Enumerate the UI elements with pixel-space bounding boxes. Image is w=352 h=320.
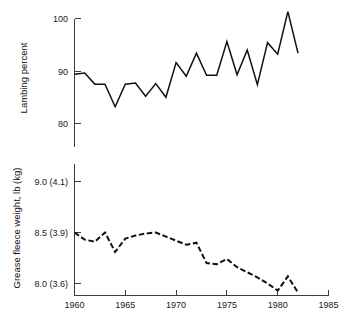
x-tick-label-1970: 1970 bbox=[166, 300, 186, 310]
y-tick-label-fleece-85: 8.5 (3.9) bbox=[34, 228, 68, 238]
x-tick-label-1985: 1985 bbox=[318, 300, 338, 310]
series-line-grease-fleece-weight bbox=[75, 233, 299, 293]
chart-figure: Lambing percent 100 90 80 Grease fleece … bbox=[0, 0, 352, 320]
panel-grease-fleece-weight: Grease fleece weight, lb (kg) 9.0 (4.1) … bbox=[11, 164, 339, 311]
y-tick-label-lambing-100: 100 bbox=[53, 14, 68, 24]
y-axis-title-lambing: Lambing percent bbox=[18, 42, 29, 113]
x-tick-label-1980: 1980 bbox=[268, 300, 288, 310]
y-axis-title-fleece: Grease fleece weight, lb (kg) bbox=[11, 168, 22, 289]
chart-svg: Lambing percent 100 90 80 Grease fleece … bbox=[0, 0, 352, 320]
y-tick-label-lambing-80: 80 bbox=[58, 119, 68, 129]
x-tick-marks bbox=[75, 290, 329, 296]
x-tick-label-1960: 1960 bbox=[64, 300, 84, 310]
x-tick-label-1975: 1975 bbox=[217, 300, 237, 310]
panel-lambing-percent: Lambing percent 100 90 80 bbox=[18, 12, 298, 147]
y-tick-label-lambing-90: 90 bbox=[58, 67, 68, 77]
x-tick-label-1965: 1965 bbox=[115, 300, 135, 310]
series-line-lambing-percent bbox=[75, 12, 299, 107]
y-tick-label-fleece-80: 8.0 (3.6) bbox=[34, 279, 68, 289]
y-tick-label-fleece-90: 9.0 (4.1) bbox=[34, 177, 68, 187]
